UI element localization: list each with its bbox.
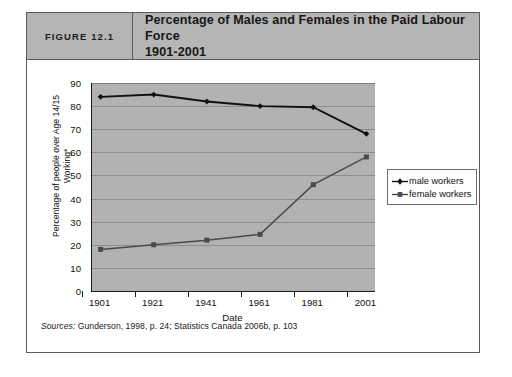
sources-line: Sources: Gunderson, 1998, p. 24; Statist… [41,321,297,331]
y-axis-tick-label: 70 [70,124,81,135]
x-axis-tick-label: 1961 [248,297,269,308]
legend-diamond-marker-icon [391,174,409,187]
x-axis-tick-label: 1941 [195,297,216,308]
chart-region: Percentage of people over Age 14/15 Work… [27,61,479,306]
x-axis-tick-mark [82,291,83,297]
data-point-marker [151,92,157,98]
y-axis-tick-label: 60 [70,147,81,158]
y-axis-tick-label: 0 [76,286,81,297]
series-line-male-workers [101,95,367,134]
data-point-marker [258,232,263,237]
legend-item-male: male workers [391,174,471,187]
y-axis-tick-label: 20 [70,239,81,250]
plot-svg [92,83,375,291]
data-point-marker [204,99,210,105]
y-axis-tick-label: 10 [70,262,81,273]
x-axis-tick-label: 1981 [302,297,323,308]
y-axis-tick-label: 80 [70,101,81,112]
data-point-marker [311,182,316,187]
y-axis-tick-label: 40 [70,193,81,204]
figure-title-line-1: Percentage of Males and Females in the P… [145,12,471,44]
sources-word: Sources: [41,321,75,331]
x-axis-tick-labels: 190119211941196119812001 [91,297,374,311]
legend-square-marker-icon [391,187,409,200]
x-axis-tick-label: 2001 [355,297,376,308]
data-point-marker [151,242,156,247]
legend-label-male: male workers [409,176,464,186]
data-point-marker [98,247,103,252]
y-axis-tick-labels: 0102030405060708090 [55,83,81,291]
x-axis-tick-label: 1921 [142,297,163,308]
plot-area [91,83,375,292]
y-axis-tick-label: 50 [70,170,81,181]
data-point-marker [364,154,369,159]
figure-number-label: FIGURE 12.1 [45,31,114,42]
y-axis-tick-label: 30 [70,216,81,227]
data-point-marker [257,103,263,109]
y-axis-tick-label: 90 [70,78,81,89]
data-point-marker [98,94,104,100]
x-axis-tick-label: 1901 [89,297,110,308]
legend-item-female: female workers [391,187,471,200]
legend-label-female: female workers [409,189,471,199]
figure-number-cell: FIGURE 12.1 [27,13,133,59]
figure-title-line-2: 1901-2001 [145,44,471,60]
figure-header-band: FIGURE 12.1 Percentage of Males and Fema… [27,13,479,60]
sources-text: Gunderson, 1998, p. 24; Statistics Canad… [75,321,297,331]
chart-legend: male workers female workers [387,169,477,205]
figure-title-cell: Percentage of Males and Females in the P… [133,13,479,59]
data-point-marker [204,238,209,243]
figure-frame: FIGURE 12.1 Percentage of Males and Fema… [26,12,480,353]
series-line-female-workers [101,157,367,249]
